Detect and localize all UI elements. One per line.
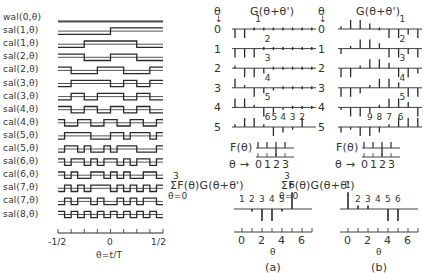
f-tick-label: 3 (388, 159, 395, 170)
result-mark: 2 (355, 195, 361, 204)
axis-mid-label: 0 (107, 238, 113, 247)
figure-canvas (0, 0, 423, 273)
walsh-label: cal(6,θ) (3, 170, 39, 179)
shift-mark: 3 (400, 54, 406, 63)
result-mark: 6 (395, 195, 401, 204)
panel-caption: (a) (265, 262, 281, 273)
theta-tick-label: 4 (384, 235, 391, 246)
axis-xlabel: θ=t/T (96, 251, 122, 260)
walsh-label: sal(2,θ) (3, 52, 38, 61)
walsh-label: sal(8,θ) (3, 210, 38, 219)
theta-tick-label: 6 (298, 235, 305, 246)
walsh-label: cal(7,θ) (3, 196, 39, 205)
result-mark: 3 (365, 195, 371, 204)
shift-mark: 4 (265, 74, 271, 83)
shift-mark: 6 (398, 113, 404, 122)
sum-label: ΣF(θ)G(θ+θ') (281, 180, 355, 191)
row-theta-label: 0 (318, 24, 325, 35)
result-mark: 4 (269, 195, 275, 204)
g-header: G(θ+θ') (356, 6, 400, 17)
theta-xlabel: θ (376, 248, 382, 257)
shift-mark: 5 (265, 93, 271, 102)
theta-tick-label: 4 (278, 235, 285, 246)
f-theta-arrow: θ → (335, 159, 355, 170)
row-theta-label: 0 (214, 24, 221, 35)
shift-mark: 1 (400, 15, 406, 24)
row-theta-label: 3 (214, 83, 221, 94)
shift-mark: 9 (367, 113, 373, 122)
f-tick-label: 2 (273, 159, 280, 170)
walsh-label: cal(1,θ) (3, 39, 39, 48)
f-label: F(θ) (230, 142, 252, 153)
f-label: F(θ) (336, 142, 358, 153)
shift-mark: 5 (272, 113, 278, 122)
panel-caption: (b) (371, 262, 387, 273)
result-mark: 1 (239, 195, 245, 204)
theta-tick-label: 0 (238, 235, 245, 246)
row-theta-label: 1 (318, 44, 325, 55)
shift-mark: 6 (265, 113, 271, 122)
result-mark: 5 (385, 195, 391, 204)
sum-label: ΣF(θ)G(θ+θ') (170, 180, 244, 191)
shift-mark: 2 (400, 35, 406, 44)
f-tick-label: 0 (361, 159, 368, 170)
theta-xlabel: θ (270, 248, 276, 257)
sum-lower-limit: θ=0 (279, 192, 298, 201)
row-theta-label: 2 (214, 63, 221, 74)
theta-tick-label: 2 (364, 235, 371, 246)
walsh-label: cal(5,θ) (3, 144, 39, 153)
shift-mark: 3 (290, 113, 296, 122)
f-theta-arrow: θ → (229, 159, 249, 170)
theta-tick-label: 6 (404, 235, 411, 246)
f-tick-label: 3 (282, 159, 289, 170)
shift-mark: 5 (400, 93, 406, 102)
walsh-label: sal(5,θ) (3, 131, 38, 140)
f-tick-label: 0 (255, 159, 262, 170)
shift-mark: 7 (386, 113, 392, 122)
row-theta-label: 1 (214, 44, 221, 55)
f-tick-label: 1 (264, 159, 271, 170)
walsh-label: cal(3,θ) (3, 92, 39, 101)
sum-lower-limit: θ=0 (168, 192, 187, 201)
result-mark: 4 (375, 195, 381, 204)
shift-mark: 4 (280, 113, 286, 122)
result-mark: 1 (345, 181, 351, 190)
result-mark: 3 (259, 195, 265, 204)
result-mark: 2 (249, 195, 255, 204)
row-theta-label: 4 (318, 102, 325, 113)
axis-max-label: 1/2 (151, 238, 166, 247)
shift-mark: 4 (400, 74, 406, 83)
shift-mark: 2 (265, 35, 271, 44)
row-theta-label: 5 (318, 122, 325, 133)
walsh-label: cal(2,θ) (3, 65, 39, 74)
walsh-label: wal(0,θ) (3, 13, 41, 22)
f-tick-label: 2 (379, 159, 386, 170)
shift-mark: 3 (265, 54, 271, 63)
axis-min-label: -1/2 (48, 238, 67, 247)
row-theta-label: 3 (318, 83, 325, 94)
walsh-label: sal(4,θ) (3, 105, 38, 114)
shift-mark: 8 (377, 113, 383, 122)
row-theta-label: 5 (214, 122, 221, 133)
shift-mark: 2 (299, 113, 305, 122)
theta-tick-label: 2 (258, 235, 265, 246)
walsh-label: sal(3,θ) (3, 79, 38, 88)
row-theta-label: 4 (214, 102, 221, 113)
walsh-label: sal(7,θ) (3, 183, 38, 192)
walsh-label: sal(1,θ) (3, 26, 38, 35)
walsh-label: sal(6,θ) (3, 157, 38, 166)
row-theta-label: 2 (318, 63, 325, 74)
theta-tick-label: 0 (344, 235, 351, 246)
shift-mark: 1 (255, 15, 261, 24)
f-tick-label: 1 (370, 159, 377, 170)
walsh-label: cal(4,θ) (3, 118, 39, 127)
